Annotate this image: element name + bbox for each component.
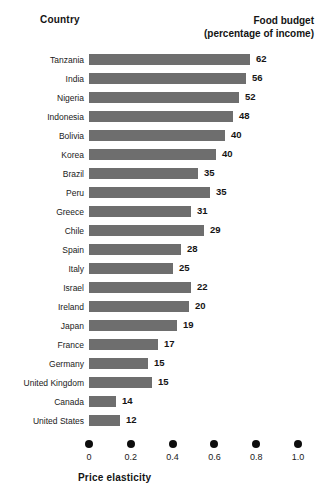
tick-dot-marker bbox=[169, 440, 177, 448]
x-axis: Price elasticity 00.20.40.60.81.0 bbox=[0, 440, 326, 502]
tick-dot-marker bbox=[85, 440, 93, 448]
column-header-food-budget: Food budget (percentage of income) bbox=[144, 14, 314, 40]
chart-row: Italy25 bbox=[0, 261, 326, 280]
tick-label: 0 bbox=[75, 452, 103, 462]
country-label: Indonesia bbox=[0, 112, 84, 122]
bar-value-label: 31 bbox=[197, 205, 208, 216]
tick-label: 0.2 bbox=[117, 452, 145, 462]
x-axis-title: Price elasticity bbox=[78, 472, 151, 483]
bar-value-label: 52 bbox=[245, 91, 256, 102]
bar bbox=[89, 377, 152, 388]
chart-row: Spain28 bbox=[0, 242, 326, 261]
chart-row: Tanzania62 bbox=[0, 52, 326, 71]
bar-value-label: 20 bbox=[195, 300, 206, 311]
country-label: Korea bbox=[0, 150, 84, 160]
bar bbox=[89, 187, 210, 198]
tick-label: 0.4 bbox=[159, 452, 187, 462]
chart-row: Israel22 bbox=[0, 280, 326, 299]
bar bbox=[89, 415, 120, 426]
food-budget-title: Food budget bbox=[144, 14, 314, 27]
country-label: Italy bbox=[0, 264, 84, 274]
country-label: Israel bbox=[0, 283, 84, 293]
bar-value-label: 62 bbox=[256, 53, 267, 64]
bar-value-label: 40 bbox=[222, 148, 233, 159]
bar-value-label: 56 bbox=[252, 72, 263, 83]
bar bbox=[89, 282, 191, 293]
bar-value-label: 19 bbox=[183, 319, 194, 330]
country-label: Spain bbox=[0, 245, 84, 255]
bar-value-label: 12 bbox=[126, 414, 137, 425]
bar bbox=[89, 301, 189, 312]
bar-value-label: 35 bbox=[216, 186, 227, 197]
chart-row: France17 bbox=[0, 337, 326, 356]
chart-row: Canada14 bbox=[0, 394, 326, 413]
tick-dot-marker bbox=[127, 440, 135, 448]
country-label: Canada bbox=[0, 397, 84, 407]
bar bbox=[89, 263, 173, 274]
bar bbox=[89, 225, 204, 236]
country-label: Germany bbox=[0, 359, 84, 369]
country-label: Bolivia bbox=[0, 131, 84, 141]
bar-value-label: 35 bbox=[204, 167, 215, 178]
country-label: United States bbox=[0, 416, 84, 426]
bar bbox=[89, 54, 250, 65]
chart-row: Brazil35 bbox=[0, 166, 326, 185]
bar bbox=[89, 130, 225, 141]
bar-value-label: 14 bbox=[122, 395, 133, 406]
chart-row: Chile29 bbox=[0, 223, 326, 242]
chart-row: Indonesia48 bbox=[0, 109, 326, 128]
bar-value-label: 29 bbox=[210, 224, 221, 235]
bar-value-label: 25 bbox=[179, 262, 190, 273]
bar bbox=[89, 396, 116, 407]
bar-value-label: 28 bbox=[187, 243, 198, 254]
tick-label: 1.0 bbox=[284, 452, 312, 462]
bar-value-label: 48 bbox=[239, 110, 250, 121]
country-label: Nigeria bbox=[0, 93, 84, 103]
country-label: Tanzania bbox=[0, 55, 84, 65]
bar-value-label: 40 bbox=[231, 129, 242, 140]
chart-row: Peru35 bbox=[0, 185, 326, 204]
country-label: India bbox=[0, 74, 84, 84]
country-label: France bbox=[0, 340, 84, 350]
tick-dot-marker bbox=[294, 440, 302, 448]
bar bbox=[89, 92, 239, 103]
country-label: Brazil bbox=[0, 169, 84, 179]
column-header-country: Country bbox=[40, 14, 80, 25]
bar bbox=[89, 73, 246, 84]
chart-row: Germany15 bbox=[0, 356, 326, 375]
country-label: Peru bbox=[0, 188, 84, 198]
chart-row: United Kingdom15 bbox=[0, 375, 326, 394]
chart-row: Nigeria52 bbox=[0, 90, 326, 109]
tick-dot-marker bbox=[210, 440, 218, 448]
tick-label: 0.6 bbox=[200, 452, 228, 462]
bar bbox=[89, 358, 148, 369]
bar-value-label: 17 bbox=[164, 338, 175, 349]
price-elasticity-chart: Country Food budget (percentage of incom… bbox=[0, 0, 326, 502]
chart-row: United States12 bbox=[0, 413, 326, 432]
country-label: Greece bbox=[0, 207, 84, 217]
bar-value-label: 22 bbox=[197, 281, 208, 292]
chart-row: Japan19 bbox=[0, 318, 326, 337]
chart-row: Ireland20 bbox=[0, 299, 326, 318]
bar bbox=[89, 168, 198, 179]
bar bbox=[89, 111, 233, 122]
country-label: Chile bbox=[0, 226, 84, 236]
chart-plot-area: Tanzania62India56Nigeria52Indonesia48Bol… bbox=[0, 52, 326, 432]
bar-value-label: 15 bbox=[158, 376, 169, 387]
bar bbox=[89, 206, 191, 217]
chart-row: Greece31 bbox=[0, 204, 326, 223]
tick-label: 0.8 bbox=[242, 452, 270, 462]
bar bbox=[89, 149, 216, 160]
country-label: Ireland bbox=[0, 302, 84, 312]
chart-row: Korea40 bbox=[0, 147, 326, 166]
bar-value-label: 15 bbox=[154, 357, 165, 368]
tick-dot-marker bbox=[252, 440, 260, 448]
bar bbox=[89, 339, 158, 350]
country-label: United Kingdom bbox=[0, 378, 84, 388]
bar bbox=[89, 320, 177, 331]
bar bbox=[89, 244, 181, 255]
country-label: Japan bbox=[0, 321, 84, 331]
chart-row: India56 bbox=[0, 71, 326, 90]
food-budget-subtitle: (percentage of income) bbox=[144, 27, 314, 40]
chart-header: Country Food budget (percentage of incom… bbox=[0, 14, 326, 48]
